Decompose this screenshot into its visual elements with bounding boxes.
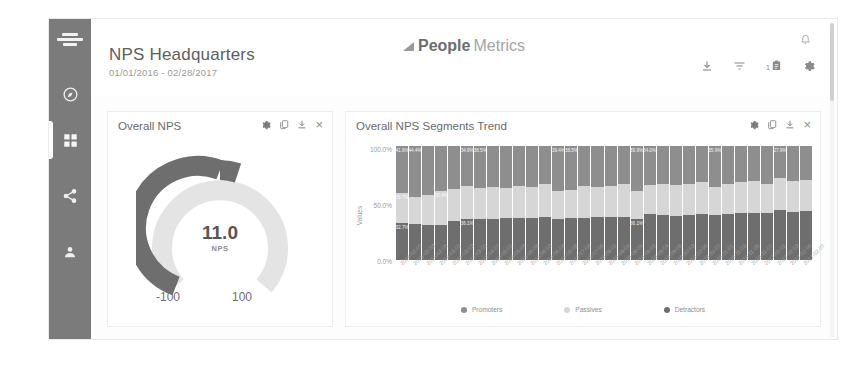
bar-segment-promoters: 39.4% xyxy=(552,146,564,191)
chart-legend: PromotersPassivesDetractors xyxy=(346,306,820,313)
legend-item-passives[interactable]: Passives xyxy=(564,306,601,313)
bar-segment-passives xyxy=(722,184,734,214)
bar-segment-passives xyxy=(422,195,434,225)
bar-value-label: 41.6% xyxy=(396,148,409,153)
card-header: Overall NPS Segments Trend xyxy=(346,112,820,138)
bar-segment-passives xyxy=(774,178,786,211)
filter-icon[interactable] xyxy=(733,60,746,72)
bar-segment-promoters xyxy=(787,146,799,181)
brand-logo: PeopleMetrics xyxy=(403,37,525,55)
bar-column[interactable] xyxy=(696,146,708,260)
bar-segment-promoters xyxy=(591,146,603,187)
bar-segment-passives: 25.7% xyxy=(396,193,408,222)
bar-segment-promoters xyxy=(735,146,747,182)
brand-name-light: Metrics xyxy=(473,37,525,55)
bar-segment-passives xyxy=(670,185,682,216)
sidebar-item-user[interactable] xyxy=(49,229,91,275)
bar-segment-promoters: 35.9% xyxy=(709,146,721,187)
bar-segment-promoters xyxy=(487,146,499,187)
bar-segment-passives xyxy=(735,182,747,213)
bar-column[interactable] xyxy=(748,146,760,260)
bar-column[interactable]: 27.9% xyxy=(774,146,786,260)
bar-value-label: 44.4% xyxy=(409,148,422,153)
sidebar-item-share[interactable] xyxy=(49,173,91,219)
bar-column[interactable] xyxy=(761,146,773,260)
bar-segment-promoters xyxy=(513,146,525,186)
copy-icon[interactable] xyxy=(279,119,289,130)
bar-value-label: 25.7% xyxy=(396,195,409,200)
peoplemetrics-mark xyxy=(57,29,83,49)
nps-gauge: 11.0 NPS -100 100 xyxy=(108,138,332,320)
bar-column[interactable] xyxy=(722,146,734,260)
bar-column[interactable] xyxy=(735,146,747,260)
legend-label: Detractors xyxy=(675,306,705,313)
bar-column[interactable] xyxy=(683,146,695,260)
bar-segment-passives xyxy=(539,184,551,217)
gear-icon[interactable] xyxy=(748,119,759,130)
legend-item-detractors[interactable]: Detractors xyxy=(664,306,705,313)
bar-segment-promoters: 27.9% xyxy=(774,146,786,178)
y-axis-ticks: 100.0%50.0%0.0% xyxy=(360,146,394,258)
bar-segment-promoters xyxy=(761,146,773,184)
bar-value-label: 32.7% xyxy=(396,225,409,230)
nps-segments-trend-card: Overall NPS Segments Trend xyxy=(345,111,821,327)
notification-bell-icon[interactable] xyxy=(800,31,811,49)
bar-column[interactable]: 41.6%25.7%32.7% xyxy=(396,146,408,260)
download-icon[interactable] xyxy=(701,60,713,72)
bar-segment-passives xyxy=(461,186,473,219)
bar-segment-promoters xyxy=(500,146,512,188)
gear-icon[interactable] xyxy=(802,59,815,72)
bar-segment-promoters xyxy=(435,146,447,191)
bar-value-label: 34.9% xyxy=(461,148,474,153)
bar-segment-passives xyxy=(683,184,695,215)
bar-value-label: 36.1% xyxy=(461,221,474,226)
clipboard-badge-count: 1 xyxy=(766,64,770,71)
bar-column[interactable] xyxy=(787,146,799,260)
bar-segment-passives: 30.4% xyxy=(435,191,447,226)
legend-item-promoters[interactable]: Promoters xyxy=(461,306,502,313)
header-toolbar: 1 xyxy=(701,59,815,72)
bar-column[interactable] xyxy=(800,146,812,260)
bar-value-label: 38.5% xyxy=(565,148,578,153)
sidebar-item-dashboard[interactable] xyxy=(49,117,91,163)
bar-segment-passives xyxy=(761,184,773,214)
brand-name-bold: People xyxy=(418,37,470,55)
compass-icon xyxy=(62,86,79,103)
gear-icon[interactable] xyxy=(260,119,271,130)
card-title: Overall NPS Segments Trend xyxy=(356,120,507,132)
card-header: Overall NPS xyxy=(108,112,332,138)
bar-segment-promoters xyxy=(526,146,538,187)
bar-segment-passives xyxy=(565,190,577,218)
bar-column[interactable]: 35.9% xyxy=(709,146,721,260)
bar-segment-promoters xyxy=(539,146,551,184)
bar-segment-passives xyxy=(409,197,421,224)
bar-segment-promoters: 34.0% xyxy=(644,146,656,185)
y-tick-label: 50.0% xyxy=(374,202,392,209)
bar-value-label: 30.4% xyxy=(435,193,448,198)
bar-segment-passives xyxy=(748,181,760,213)
sidebar-item-compass[interactable] xyxy=(49,71,91,117)
bar-segment-passives xyxy=(448,189,460,221)
vertical-scrollbar[interactable] xyxy=(830,23,834,337)
brand-triangle-icon xyxy=(403,42,414,51)
bar-segment-promoters xyxy=(670,146,682,185)
copy-icon[interactable] xyxy=(767,119,777,130)
bar-value-label: 34.0% xyxy=(643,148,656,153)
bar-segment-promoters: 39.9% xyxy=(631,146,643,191)
download-icon[interactable] xyxy=(785,119,795,130)
page-title: NPS Headquarters xyxy=(109,45,255,65)
close-icon[interactable]: × xyxy=(315,120,323,130)
bar-segment-passives xyxy=(709,187,721,216)
y-tick-label: 0.0% xyxy=(377,258,392,265)
dashboard-app: NPS Headquarters 01/01/2016 - 02/28/2017… xyxy=(48,18,838,340)
scrollbar-thumb[interactable] xyxy=(830,23,834,101)
bar-value-label: 39.4% xyxy=(552,148,565,153)
clipboard-icon[interactable]: 1 xyxy=(766,59,782,72)
page-header: NPS Headquarters 01/01/2016 - 02/28/2017… xyxy=(91,19,837,97)
download-icon[interactable] xyxy=(297,119,307,130)
sidebar xyxy=(49,19,91,340)
y-tick-label: 100.0% xyxy=(370,146,392,153)
bar-segment-promoters: 41.6% xyxy=(396,146,408,193)
card-toolbar: × xyxy=(748,119,811,130)
close-icon[interactable]: × xyxy=(803,120,811,130)
